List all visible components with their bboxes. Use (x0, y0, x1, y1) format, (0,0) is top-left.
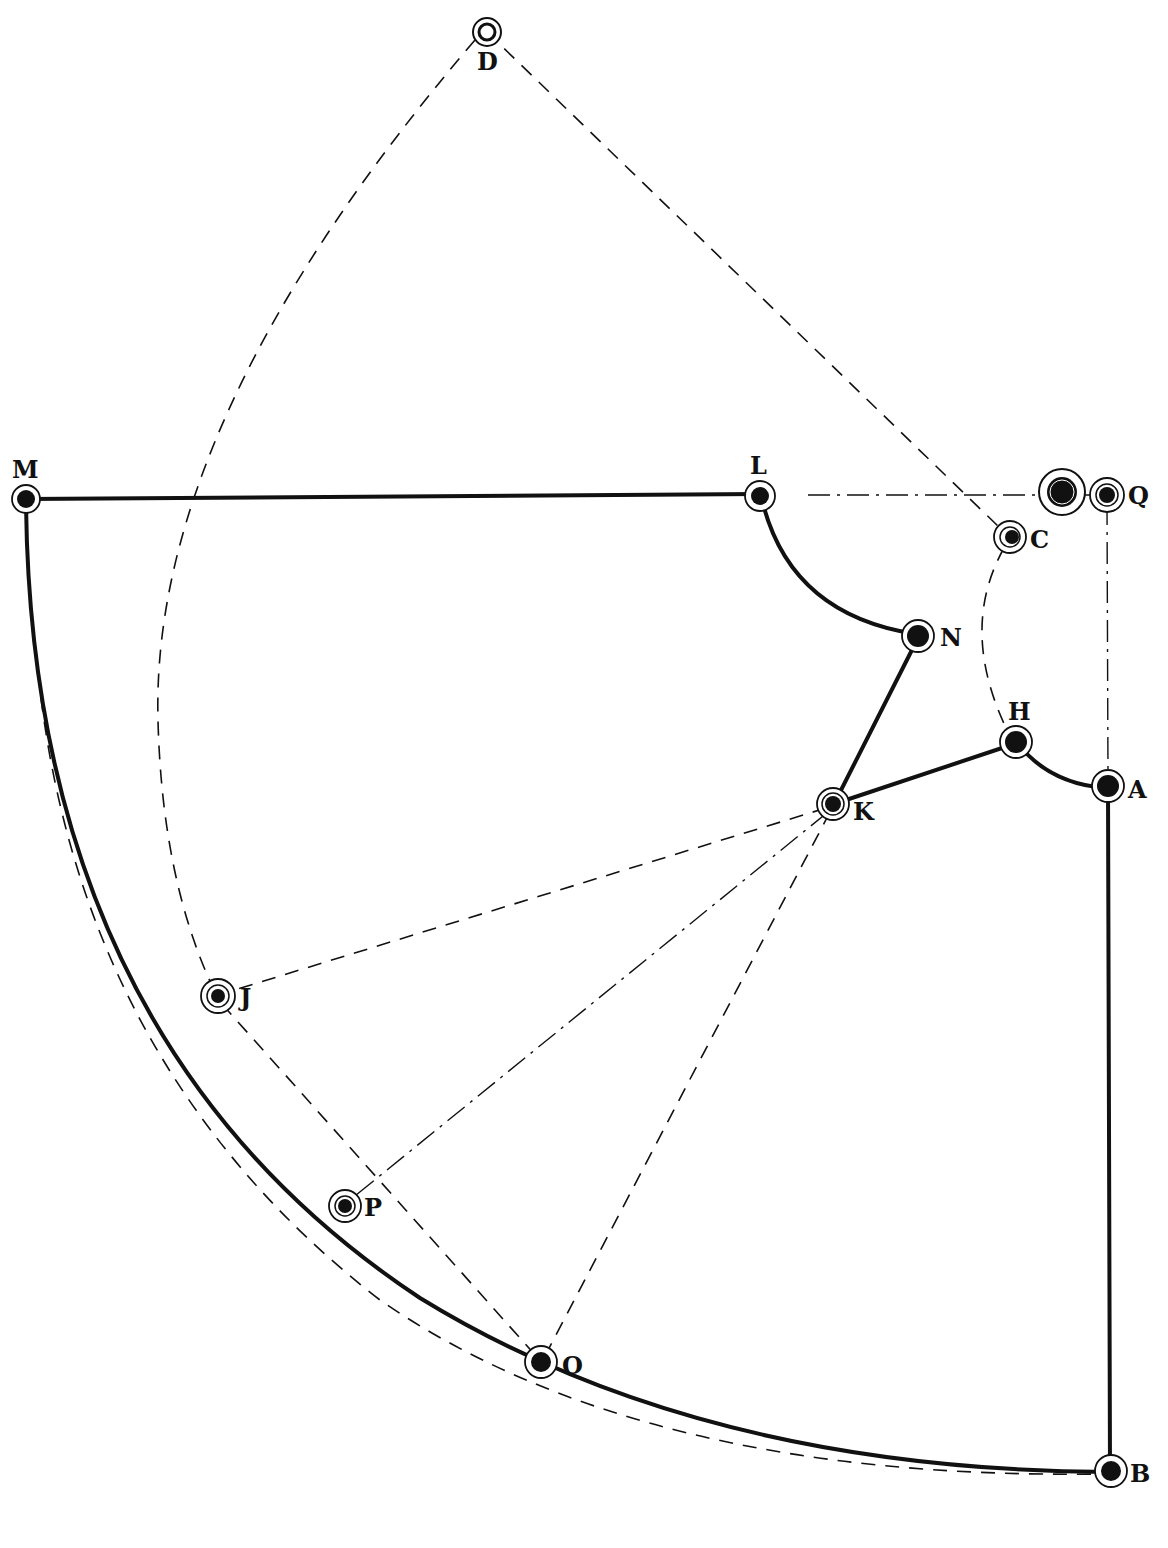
dashed-construction-lines (36, 32, 1098, 1474)
line-j-o (222, 1004, 536, 1356)
point-p: P (329, 1190, 382, 1222)
line-m-l (26, 494, 760, 499)
point-l: L (745, 451, 775, 511)
curve-c-h (982, 548, 1008, 732)
points: D M L Q C (12, 18, 1150, 1488)
point-m: M (12, 455, 40, 513)
line-k-o (546, 812, 830, 1354)
label-k: K (853, 797, 875, 826)
point-o: O (525, 1346, 583, 1380)
label-l: L (750, 451, 767, 480)
label-h: H (1008, 697, 1031, 726)
line-q-a (1107, 503, 1108, 778)
label-c: C (1030, 525, 1049, 554)
point-q-large (1039, 469, 1085, 515)
line-a-b (1108, 788, 1110, 1470)
line-d-c (487, 32, 1000, 528)
label-p: P (364, 1193, 382, 1222)
point-d: D (473, 18, 501, 76)
label-d: D (477, 47, 498, 76)
label-a: A (1127, 775, 1147, 804)
point-j: J (201, 979, 251, 1013)
point-c: C (994, 521, 1049, 554)
curve-l-n (762, 500, 916, 634)
point-h: H (1000, 697, 1032, 758)
point-q: Q (1090, 478, 1149, 512)
point-b: B (1095, 1455, 1150, 1488)
label-o: O (562, 1351, 583, 1380)
label-q: Q (1128, 481, 1149, 510)
dash-dot-lines (350, 495, 1108, 1200)
label-m: M (12, 455, 39, 484)
point-a: A (1092, 770, 1147, 804)
label-n: N (940, 623, 962, 652)
label-b: B (1130, 1459, 1150, 1488)
point-n: N (902, 620, 962, 652)
arc-d-j (158, 40, 475, 990)
pattern-diagram: D M L Q C (0, 0, 1168, 1548)
line-k-p (350, 812, 828, 1200)
label-j: J (238, 983, 251, 1012)
line-k-j (228, 808, 826, 992)
